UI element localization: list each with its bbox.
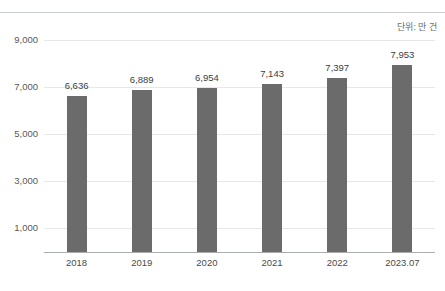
bar-value-label: 7,397 xyxy=(325,62,349,73)
bar-value-label: 6,889 xyxy=(130,74,154,85)
bar-slot: 7,143 xyxy=(240,40,305,252)
bar[interactable] xyxy=(197,88,217,252)
cropped-heading-text xyxy=(8,0,248,4)
unit-caption: 단위: 만 건 xyxy=(397,21,437,33)
bar-slot: 6,636 xyxy=(44,40,109,252)
bar-value-label: 6,954 xyxy=(195,72,219,83)
bar[interactable] xyxy=(262,84,282,252)
bar[interactable] xyxy=(67,96,87,252)
bar-value-label: 7,143 xyxy=(260,68,284,79)
bar[interactable] xyxy=(132,90,152,252)
x-axis-tick-label: 2018 xyxy=(44,256,109,270)
bar-slot: 7,397 xyxy=(305,40,370,252)
y-axis-tick-label: 1,000 xyxy=(14,223,38,233)
y-axis-tick-label: 5,000 xyxy=(14,129,38,139)
bars-layer: 6,6366,8896,9547,1437,3977,953 xyxy=(44,40,435,252)
bar-slot: 7,953 xyxy=(370,40,435,252)
x-axis-tick-label: 2022 xyxy=(305,256,370,270)
x-axis-tick-label: 2019 xyxy=(109,256,174,270)
plot-area: 1,0003,0005,0007,0009,000 6,6366,8896,95… xyxy=(44,40,435,252)
x-axis: 201820192020202120222023.07 xyxy=(44,256,435,276)
bar-slot: 6,954 xyxy=(174,40,239,252)
x-axis-tick-label: 2020 xyxy=(174,256,239,270)
y-axis-tick-label: 7,000 xyxy=(14,82,38,92)
bar-value-label: 6,636 xyxy=(65,80,89,91)
y-axis-tick-label: 3,000 xyxy=(14,176,38,186)
axis-baseline xyxy=(44,252,435,253)
header-divider xyxy=(0,12,445,13)
bar[interactable] xyxy=(327,78,347,252)
x-axis-tick-label: 2023.07 xyxy=(370,256,435,270)
x-axis-tick-label: 2021 xyxy=(240,256,305,270)
bar-value-label: 7,953 xyxy=(391,49,415,60)
chart-page: 단위: 만 건 1,0003,0005,0007,0009,000 6,6366… xyxy=(0,0,445,291)
y-axis-tick-label: 9,000 xyxy=(14,35,38,45)
bar[interactable] xyxy=(392,65,412,252)
bar-slot: 6,889 xyxy=(109,40,174,252)
